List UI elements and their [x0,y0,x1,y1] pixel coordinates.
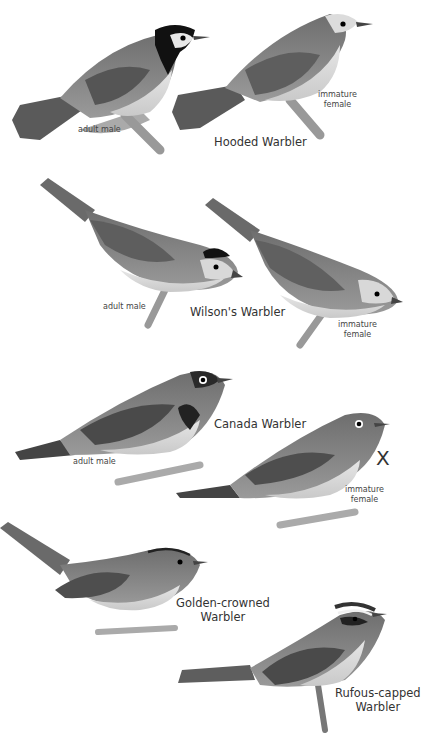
rufous-capped-warbler-name: Rufous-capped Warbler [335,686,421,714]
hooded-warbler-name: Hooded Warbler [214,135,307,149]
hooded-warbler-immature-female-figure [172,14,373,135]
golden-crowned-warbler-name: Golden-crowned Warbler [176,596,270,624]
label-line-1: immature [345,485,384,495]
name-line-2: Warbler [176,610,270,624]
canada-warbler-name: Canada Warbler [214,417,306,431]
wilsons-immature-female-label: immature female [338,320,377,340]
hooded-immature-female-label: immature female [318,90,357,110]
hooded-adult-male-label: adult male [78,125,121,135]
wilsons-warbler-name: Wilson's Warbler [190,305,285,319]
label-line-1: immature [318,90,357,100]
canada-immature-female-label: immature female [345,485,384,505]
label-line-1: immature [338,320,377,330]
canada-warbler-adult-male-figure [15,371,233,482]
name-line-1: Golden-crowned [176,596,270,610]
canada-adult-male-label: adult male [73,457,116,467]
wilsons-adult-male-label: adult male [103,302,146,312]
name-line-2: Warbler [335,700,421,714]
label-line-2: female [318,100,357,110]
name-line-1: Rufous-capped [335,686,421,700]
label-line-2: female [338,330,377,340]
range-mark-x: X [376,448,390,468]
label-line-2: female [345,495,384,505]
